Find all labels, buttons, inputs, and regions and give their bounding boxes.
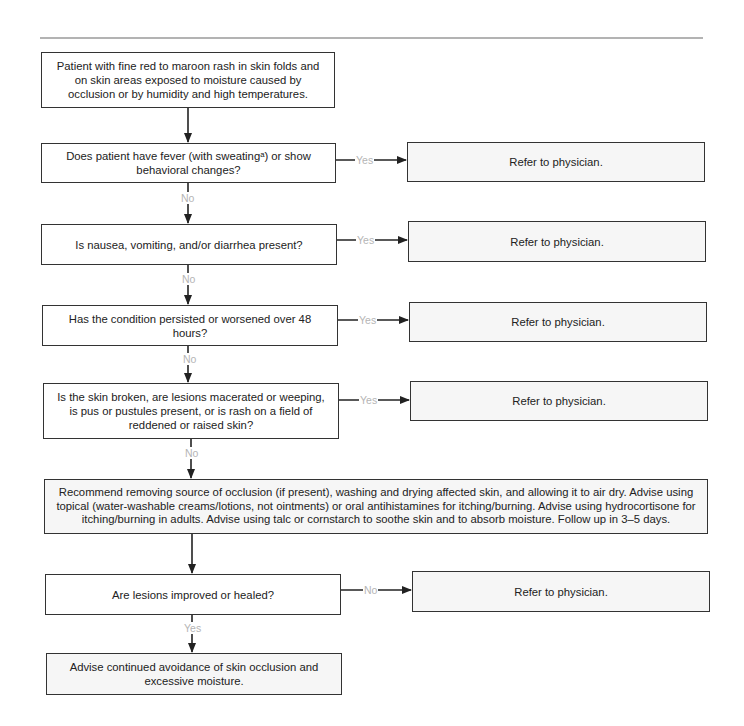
question-box-2: Is nausea, vomiting, and/or diarrhea pre… bbox=[41, 224, 337, 265]
no-label-2: No bbox=[181, 273, 196, 285]
question-text-4: Is the skin broken, are lesions macerate… bbox=[52, 390, 330, 432]
yes-label-2: Yes bbox=[356, 234, 375, 246]
start-box: Patient with fine red to maroon rash in … bbox=[41, 52, 335, 108]
refer-text-4: Refer to physician. bbox=[512, 394, 606, 408]
question-text-2: Is nausea, vomiting, and/or diarrhea pre… bbox=[75, 238, 302, 252]
recommendation-box: Recommend removing source of occlusion (… bbox=[44, 479, 708, 534]
connectors bbox=[0, 0, 744, 726]
yes-label-5: Yes bbox=[183, 622, 202, 634]
question-text-3: Has the condition persisted or worsened … bbox=[53, 312, 327, 340]
followup-question-box: Are lesions improved or healed? bbox=[45, 574, 341, 615]
no-label-1: No bbox=[180, 192, 195, 204]
yes-label-3: Yes bbox=[358, 314, 377, 326]
refer-box-3: Refer to physician. bbox=[409, 302, 707, 342]
start-text: Patient with fine red to maroon rash in … bbox=[54, 59, 322, 101]
question-text-1: Does patient have fever (with sweatingᵃ)… bbox=[52, 149, 325, 177]
question-box-4: Is the skin broken, are lesions macerate… bbox=[43, 383, 339, 439]
final-text: Advise continued avoidance of skin occlu… bbox=[57, 660, 331, 688]
refer-text-5: Refer to physician. bbox=[514, 585, 608, 599]
question-box-3: Has the condition persisted or worsened … bbox=[42, 305, 338, 346]
followup-question-text: Are lesions improved or healed? bbox=[112, 588, 274, 602]
no-label-3: No bbox=[182, 353, 197, 365]
yes-label-1: Yes bbox=[355, 154, 374, 166]
recommendation-text: Recommend removing source of occlusion (… bbox=[51, 486, 701, 527]
refer-text-3: Refer to physician. bbox=[511, 315, 605, 329]
refer-text-2: Refer to physician. bbox=[510, 235, 604, 249]
no-label-5: No bbox=[363, 584, 378, 596]
refer-box-4: Refer to physician. bbox=[410, 381, 708, 421]
no-label-4: No bbox=[184, 447, 199, 459]
yes-label-4: Yes bbox=[359, 394, 378, 406]
top-rule bbox=[40, 37, 703, 39]
refer-text-1: Refer to physician. bbox=[509, 155, 603, 169]
refer-box-1: Refer to physician. bbox=[407, 142, 705, 182]
refer-box-2: Refer to physician. bbox=[408, 221, 706, 262]
refer-box-5: Refer to physician. bbox=[412, 571, 710, 612]
question-box-1: Does patient have fever (with sweatingᵃ)… bbox=[41, 143, 336, 183]
final-box: Advise continued avoidance of skin occlu… bbox=[46, 653, 342, 695]
